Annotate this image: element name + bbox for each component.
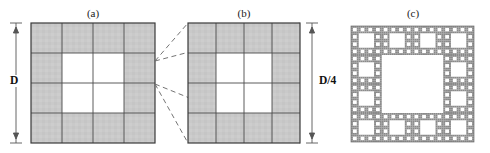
- panel-c-fractal: [351, 26, 474, 142]
- figure-canvas: [0, 0, 490, 153]
- panel-b-diagram: [188, 23, 300, 143]
- dimension-line-D4: [306, 23, 318, 143]
- panel-a-diagram: [31, 23, 155, 143]
- panel-label-b: (b): [229, 8, 259, 19]
- panel-label-a: (a): [78, 8, 108, 19]
- dimension-label-D4: D/4: [318, 75, 337, 87]
- fractal-construction-figure: (a) (b) (c) D D/4: [0, 0, 490, 153]
- dimension-label-D: D: [9, 75, 19, 87]
- panel-label-c: (c): [398, 8, 428, 19]
